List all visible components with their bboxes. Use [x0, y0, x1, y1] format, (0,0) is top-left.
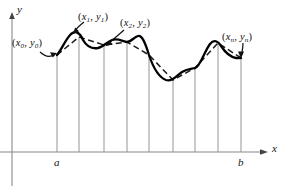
arc-length-diagram: y x a b (x0, y0) (x1, y1) (x2, y2) (xn, … [0, 0, 283, 188]
point-label-pn-x-var: x [226, 31, 231, 42]
point-label-p2-x-var: x [124, 17, 129, 28]
y-axis-arrowhead [9, 12, 15, 19]
point-label-pn-close-paren: ) [249, 31, 253, 42]
point-label-pn-x-sub: n [231, 36, 235, 44]
upper-bound-label-b: b [238, 157, 244, 168]
x-axis-arrowhead [260, 149, 268, 155]
point-label-p0-x-var: x [16, 37, 21, 48]
point-label-pn: (xn, yn) [222, 32, 252, 43]
point-label-p1-close-paren: ) [105, 11, 109, 22]
y-axis-label: y [17, 4, 22, 15]
point-label-p2-close-paren: ) [147, 17, 151, 28]
point-label-p1-y-sub: 1 [101, 16, 105, 24]
x-axis-label: x [272, 143, 277, 154]
point-label-p0-y-sub: 0 [35, 42, 39, 50]
point-label-p1-x-var: x [82, 11, 87, 22]
lower-bound-label-a: a [54, 157, 60, 168]
point-label-p1: (x1, y1) [78, 12, 108, 23]
point-label-p2-y-sub: 2 [143, 22, 147, 30]
point-label-p1-x-sub: 1 [87, 16, 91, 24]
point-label-p0-x-sub: 0 [21, 42, 25, 50]
point-label-p0-close-paren: ) [39, 37, 43, 48]
point-label-p2-x-sub: 2 [129, 22, 133, 30]
point-label-pn-y-sub: n [245, 36, 249, 44]
point-label-p0: (x0, y0) [12, 38, 42, 49]
point-label-p2: (x2, y2) [120, 18, 150, 29]
